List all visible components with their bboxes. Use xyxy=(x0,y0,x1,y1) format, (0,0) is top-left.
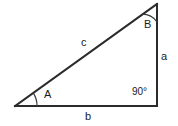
angle-C-label: 90° xyxy=(132,87,147,97)
angle-B-label: B xyxy=(144,19,151,30)
side-c-label: c xyxy=(81,37,87,48)
side-a-label: a xyxy=(161,51,167,62)
triangle-diagram: c a b A B 90° xyxy=(0,0,178,126)
side-b-label: b xyxy=(85,111,91,122)
angle-A-label: A xyxy=(44,89,51,100)
angle-A-arc xyxy=(33,93,37,106)
